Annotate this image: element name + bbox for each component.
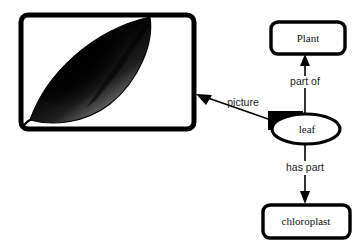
- node-plant[interactable]: Plant: [271, 22, 345, 54]
- picture-arrow-head: [196, 94, 212, 105]
- diagram-svg: picture part of has part Plant leaf: [0, 0, 364, 248]
- node-leaf[interactable]: leaf: [268, 111, 340, 144]
- node-chloroplast[interactable]: chloroplast: [263, 205, 350, 238]
- part-of-arrow-head: [300, 54, 310, 66]
- edge-label-picture: picture: [227, 96, 259, 108]
- has-part-arrow-head: [300, 191, 310, 204]
- edge-label-has-part: has part: [286, 161, 324, 173]
- node-plant-label: Plant: [297, 32, 320, 44]
- edge-label-part-of: part of: [290, 75, 320, 87]
- node-chloroplast-label: chloroplast: [282, 215, 331, 227]
- edge-picture: picture: [196, 94, 271, 120]
- node-leaf-label: leaf: [299, 123, 316, 135]
- edge-has-part: has part: [286, 145, 324, 204]
- diagram-canvas: picture part of has part Plant leaf: [0, 0, 364, 248]
- picture-panel: [15, 0, 194, 129]
- edge-part-of: part of: [290, 54, 320, 113]
